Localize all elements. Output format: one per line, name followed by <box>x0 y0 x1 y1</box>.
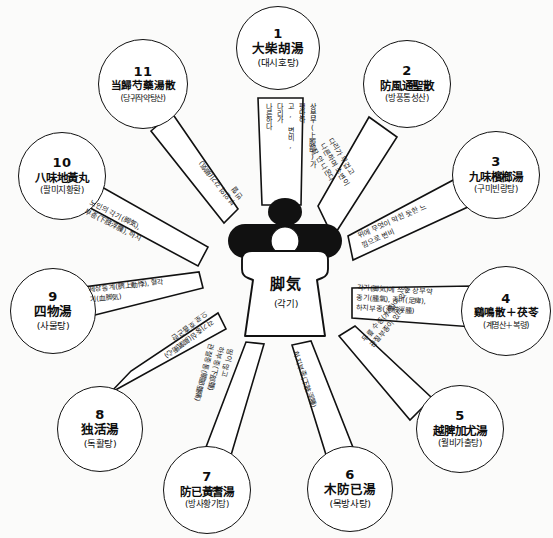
callout-wedge-6 <box>292 341 354 458</box>
node-kor-label: (방풍통성산) <box>385 94 429 104</box>
node-han-label: 防已黃耆湯 <box>180 486 234 499</box>
node-number: 10 <box>52 156 71 171</box>
node-circle-10[interactable]: 10 八味地黃丸 (팔미지황환) <box>18 132 106 220</box>
node-han-label: 木防已湯 <box>324 483 375 497</box>
center-label: 脚気 (각기) <box>238 272 334 310</box>
node-kor-label: (목방사탕) <box>329 499 370 510</box>
callout-wedge-3 <box>348 177 470 260</box>
callout-wedge-8 <box>110 313 226 393</box>
node-kor-label: (사물탕) <box>37 321 69 332</box>
node-kor-label: (대시호탕) <box>257 58 298 69</box>
node-han-label: 八味地黃丸 <box>35 172 89 185</box>
center-label-han: 脚気 <box>238 272 334 293</box>
node-number: 7 <box>202 470 212 485</box>
beriberi-prescription-radial-diagram: 脚気 (각기) 1 大柴胡湯 (대시호탕) 2 防風通聖散 (방풍통성산) 3 … <box>0 0 553 538</box>
node-kor-label: (월비가출탕) <box>438 439 482 449</box>
node-kor-label: (구미빈랑탕) <box>474 185 518 195</box>
node-han-label: 大柴胡湯 <box>252 42 303 56</box>
center-label-kor: (각기) <box>238 296 334 310</box>
node-kor-label: (계명산＋복령) <box>483 321 529 330</box>
callout-wedge-7 <box>203 342 264 462</box>
node-circle-7[interactable]: 7 防已黃耆湯 (방사황기탕) <box>163 446 251 534</box>
node-number: 5 <box>455 409 465 424</box>
node-circle-4[interactable]: 4 鷄鳴散＋茯苓 (계명산＋복령) <box>461 266 551 356</box>
node-number: 9 <box>48 290 58 305</box>
node-number: 2 <box>402 64 412 79</box>
callout-wedge-5 <box>339 326 432 420</box>
node-circle-2[interactable]: 2 防風通聖散 (방풍통성산) <box>363 40 451 128</box>
node-number: 8 <box>95 408 105 423</box>
node-han-label: 九味檳榔湯 <box>469 171 523 184</box>
node-kor-label: (독활탕) <box>84 439 116 450</box>
callout-wedge-4 <box>352 286 473 327</box>
node-circle-3[interactable]: 3 九味檳榔湯 (구미빈랑탕) <box>452 131 540 219</box>
node-kor-label: (방사황기탕) <box>185 500 229 510</box>
node-circle-1[interactable]: 1 大柴胡湯 (대시호탕) <box>236 6 320 90</box>
node-han-label: 防風通聖散 <box>380 80 434 93</box>
node-circle-8[interactable]: 8 独活湯 (독활탕) <box>57 386 143 472</box>
node-circle-11[interactable]: 11 当歸芍藥湯散 (당귀작약탕산) <box>98 39 188 129</box>
node-han-label: 鷄鳴散＋茯苓 <box>474 307 539 319</box>
node-han-label: 当歸芍藥湯散 <box>111 80 176 92</box>
node-kor-label: (당귀작약탕산) <box>120 94 165 103</box>
node-circle-5[interactable]: 5 越脾加尤湯 (월비가출탕) <box>416 385 504 473</box>
node-circle-9[interactable]: 9 四物湯 (사물탕) <box>10 268 96 354</box>
node-number: 6 <box>345 468 355 483</box>
node-han-label: 四物湯 <box>34 305 72 319</box>
callout-wedge-1 <box>258 98 303 205</box>
node-number: 3 <box>491 155 501 170</box>
node-han-label: 越脾加尤湯 <box>433 425 487 438</box>
node-circle-6[interactable]: 6 木防已湯 (목방사탕) <box>307 446 393 532</box>
node-han-label: 独活湯 <box>81 423 119 437</box>
node-number: 1 <box>273 27 283 42</box>
node-kor-label: (팔미지황환) <box>40 186 84 196</box>
node-number: 11 <box>133 65 152 80</box>
node-number: 4 <box>501 292 511 307</box>
